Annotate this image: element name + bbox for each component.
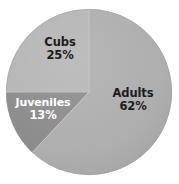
pie-label-juveniles: Juveniles 13% [4,97,82,122]
pie-label-cubs-value: 25% [24,49,96,62]
pie-label-cubs: Cubs 25% [24,36,96,62]
pie-chart: Cubs 25% Adults 62% Juveniles 13% [0,0,179,184]
pie-label-adults-value: 62% [98,100,168,113]
pie-label-juveniles-value: 13% [4,109,82,122]
pie-label-cubs-name: Cubs [24,36,96,49]
pie-label-adults-name: Adults [98,87,168,100]
pie-label-adults: Adults 62% [98,87,168,113]
